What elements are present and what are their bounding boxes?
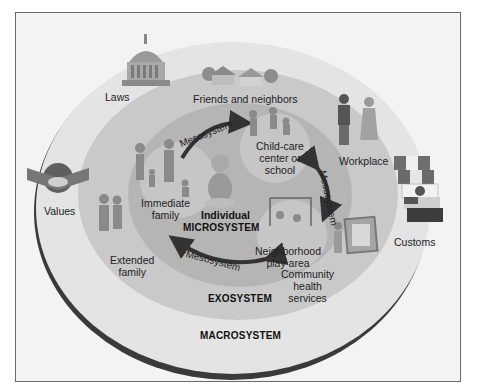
label-workplace: Workplace xyxy=(339,155,388,167)
label-child-care: Child-care center or school xyxy=(256,140,304,176)
label-microsystem: MICROSYSTEM xyxy=(183,222,260,234)
label-neighborhood-play: Neighborhood play area xyxy=(255,245,321,269)
label-individual: Individual xyxy=(201,209,250,221)
label-values: Values xyxy=(44,205,75,217)
label-friends-neighbors: Friends and neighbors xyxy=(193,93,297,105)
label-community-health: Community health services xyxy=(281,268,334,304)
label-extended-family: Extended family xyxy=(110,254,154,278)
label-macrosystem: MACROSYSTEM xyxy=(200,330,281,342)
label-immediate-family: Immediate family xyxy=(141,197,190,221)
label-customs: Customs xyxy=(394,236,435,248)
label-exosystem: EXOSYSTEM xyxy=(208,293,272,305)
label-laws: Laws xyxy=(105,91,130,103)
